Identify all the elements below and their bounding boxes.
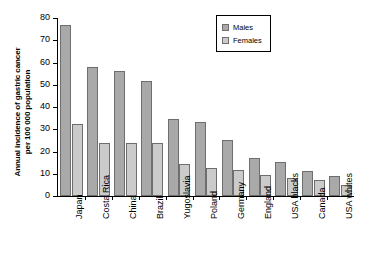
y-tick: 40 [53,107,57,108]
bar-females [152,143,163,196]
bar-females [72,124,83,196]
x-category-label: Brazil [155,196,165,219]
y-tick: 30 [53,129,57,130]
y-tick: 0 [53,196,57,197]
x-category-label: Poland [209,191,219,219]
bar-group [112,18,139,196]
x-tick [246,196,247,200]
x-tick [193,196,194,200]
bar-males [87,67,98,196]
y-tick-label: 20 [40,146,50,156]
x-tick [219,196,220,200]
x-category-label: Canada [317,187,327,219]
chart-figure: Annual incidence of gastric cancer per 1… [0,0,365,277]
x-tick [273,196,274,200]
bar-males [249,158,260,196]
x-category-label: Germany [236,182,246,219]
x-tick [139,196,140,200]
bar-males [60,25,71,196]
y-tick: 10 [53,174,57,175]
bar-males [114,71,125,196]
bar-group [166,18,193,196]
bar-group [58,18,85,196]
x-category-label: Japan [74,194,84,219]
legend-swatch-males-icon [222,24,229,31]
y-tick-label: 80 [40,12,50,22]
bar-males [168,119,179,196]
x-tick [166,196,167,200]
bar-males [302,171,313,196]
x-category-label: England [263,186,273,219]
y-tick-label: 0 [45,190,50,200]
y-axis-title: Annual incidence of gastric cancer per 1… [13,17,33,207]
legend-label-females: Females [233,36,262,45]
legend-item-males: Males [222,21,262,33]
bar-group [273,18,300,196]
bar-series-container [58,18,354,196]
bar-group [139,18,166,196]
x-category-label: Yugoslavia [182,175,192,219]
x-category-label: China [128,195,138,219]
y-tick: 80 [53,18,57,19]
bar-group [300,18,327,196]
y-tick-label: 50 [40,79,50,89]
y-tick: 70 [53,40,57,41]
x-tick [327,196,328,200]
x-category-label: USA whites [344,173,354,219]
x-category-label: Costa Rica [101,175,111,219]
y-tick: 20 [53,152,57,153]
legend-swatch-females-icon [222,37,229,44]
bar-group [85,18,112,196]
y-tick: 60 [53,63,57,64]
y-tick-label: 30 [40,123,50,133]
bar-males [141,81,152,196]
y-tick-label: 10 [40,168,50,178]
x-tick [300,196,301,200]
chart-legend: Males Females [216,15,271,52]
bar-group [327,18,354,196]
x-category-label: USA blacks [290,173,300,219]
y-tick-label: 60 [40,57,50,67]
y-tick-label: 70 [40,34,50,44]
y-tick: 50 [53,85,57,86]
x-tick [112,196,113,200]
bar-males [275,162,286,196]
bar-males [329,176,340,196]
legend-item-females: Females [222,34,262,46]
plot-area: 01020304050607080 JapanCosta RicaChinaBr… [57,18,354,196]
bar-females [126,143,137,196]
bar-males [222,140,233,196]
x-tick [85,196,86,200]
bar-males [195,122,206,196]
y-tick-label: 40 [40,101,50,111]
legend-label-males: Males [233,23,253,32]
